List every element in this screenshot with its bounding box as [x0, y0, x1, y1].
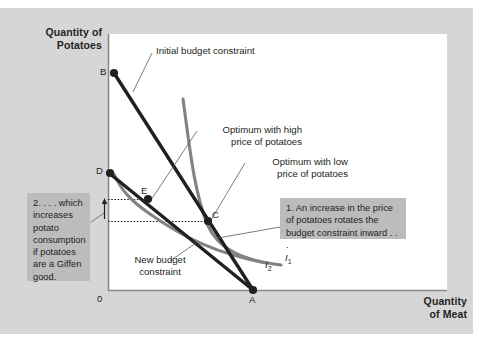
callout-giffen: 2. . . . which increases potato consumpt… — [27, 193, 90, 281]
point-label-c: C — [212, 209, 219, 221]
annotation-optimum-high-line1: Optimum with high — [223, 124, 302, 135]
point-label-e: E — [141, 185, 147, 197]
annotation-initial-budget-constraint: Initial budget constraint — [156, 45, 255, 57]
leader-callout-left — [91, 213, 104, 222]
x-axis-title: Quantityof Meat — [355, 295, 467, 321]
annotation-new-budget-line2: constraint — [139, 266, 181, 277]
indifference-curve-2-label: I2 — [265, 259, 272, 273]
leader-initial-budget — [133, 53, 152, 92]
annotation-new-budget-line1: New budget — [134, 254, 185, 265]
y-axis-title-line2: Potatoes — [57, 39, 102, 51]
point-label-a: A — [249, 294, 255, 306]
annotation-optimum-low-line1: Optimum with low — [272, 156, 348, 167]
point-label-d: D — [96, 165, 103, 177]
origin-label: 0 — [97, 293, 102, 305]
annotation-optimum-high-price: Optimum with highprice of potatoes — [100, 124, 302, 147]
point-marker-c — [204, 217, 212, 225]
annotation-optimum-low-line2: price of potatoes — [277, 168, 348, 179]
callout-price-increase: 1. An increase in the price of potatoes … — [280, 198, 406, 239]
point-marker-b — [110, 69, 118, 77]
y-axis-title-line1: Quantity of — [45, 26, 102, 38]
x-axis-title-line1: Quantity — [424, 295, 467, 307]
annotation-optimum-low-price: Optimum with lowprice of potatoes — [140, 156, 348, 179]
point-marker-d — [106, 169, 114, 177]
indifference-curve-1-label: I1 — [285, 252, 292, 266]
curve-1-sub: 1 — [288, 258, 292, 265]
y-axis-title: Quantity ofPotatoes — [8, 26, 102, 52]
annotation-optimum-high-line2: price of potatoes — [231, 136, 302, 147]
annotation-new-budget-constraint: New budgetconstraint — [117, 254, 203, 277]
curve-2-sub: 2 — [268, 265, 272, 272]
shift-arrow-head — [102, 198, 107, 204]
x-axis-title-line2: of Meat — [430, 308, 467, 320]
point-label-b: B — [100, 66, 106, 78]
figure-container: Quantity ofPotatoes Quantityof Meat 0 B … — [0, 0, 479, 340]
indifference-curve-2-path — [114, 174, 266, 263]
leader-callout-right — [218, 227, 280, 238]
point-marker-a — [249, 286, 257, 294]
